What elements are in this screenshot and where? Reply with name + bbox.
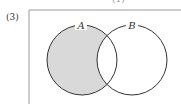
set-label-b: B <box>127 20 135 31</box>
set-label-a: A <box>76 20 84 31</box>
shaded-region-a-minus-b <box>0 0 181 106</box>
venn-diagram: A B <box>0 0 181 106</box>
